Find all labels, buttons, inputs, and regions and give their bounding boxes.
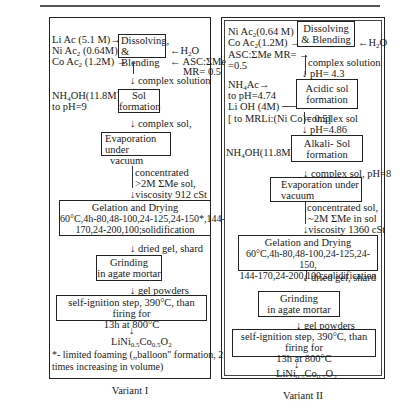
v2-dissolving-line1: Dissolving: [298, 22, 354, 34]
v1-flow-line: [133, 62, 134, 74]
subscript: 0.5: [317, 373, 326, 381]
v1-ignition-box: self-ignition step, 390°C, than firing f…: [56, 295, 207, 321]
v1-input-to-ph: to pH=9: [52, 101, 87, 112]
v1-ignite-line1: self-ignition step, 390°C, than firing f…: [57, 296, 206, 319]
v1-grind-line1: Grinding: [97, 256, 161, 268]
v2-gel-title: Gelation and Drying: [239, 236, 377, 248]
v2-nh4ac-rest: Ac→: [247, 79, 270, 90]
v1-label-viscosity: ↓viscosity 912 cSt: [130, 189, 207, 200]
v1-gelation-box: Gelation and Drying 60°C,4h-80,48-100,24…: [59, 200, 211, 236]
v1-caption: Variant I: [49, 385, 211, 396]
v1-input-ni-ac: Ni Ac2 (0.64M)→: [52, 45, 128, 56]
v2-alkali-line1: Alkali- Sol: [292, 136, 362, 149]
v1-co-ac-label: Co Ac: [52, 56, 79, 67]
v2-evap-line2: vacuum: [281, 190, 361, 201]
v2-label-viscosity: ↓viscosity 1360 cSt: [303, 224, 385, 235]
v2-dissolving-box: Dissolving & Blending: [297, 21, 355, 47]
v2-label-dried-gel: ↓ dried gel, shard: [303, 272, 376, 283]
v2-grind-line2: in agate mortar: [259, 304, 339, 315]
v2-input-to-ph: to pH=4.74: [228, 90, 276, 101]
v1-label-conc-me: >2M ΣMe sol,: [135, 178, 196, 189]
v1-evaporation-box: Evaporation under vacuum: [101, 132, 171, 156]
v2-grind-line1: Grinding: [259, 292, 339, 304]
subscript: 0.5: [296, 373, 305, 381]
v1-footnote-line1: *- limited foaming („balloon" formation,…: [52, 349, 223, 360]
v2-input-h2o: ←H2O: [358, 37, 387, 48]
v2-co-ac-label: Co Ac: [228, 37, 255, 48]
v1-gel-line2: 170,24-200,100;solidification: [60, 224, 210, 235]
v1-evap-line1: Evaporation under: [105, 133, 170, 155]
top-rule: [40, 5, 380, 7]
v2-ignition-box: self-ignition step, 390°C, than firing f…: [232, 329, 376, 357]
v1-label-dried-gel: ↓ dried gel, shard: [130, 243, 203, 254]
v2-acidic-line1: Acidic sol: [297, 80, 357, 94]
v2-gel-line1: 60°C,4h-80,48-100,24-125,24-150,: [239, 248, 377, 270]
v2-h2o-label: ←H: [358, 37, 376, 48]
v1-dissolving-line1: Dissolving,: [121, 35, 165, 46]
v1-grinding-box: Grinding in agate mortar: [96, 255, 162, 281]
v2-flow-line: [304, 112, 305, 124]
v1-input-co-ac: Co Ac2 (1.2M) →: [52, 56, 127, 67]
v1-grind-line2: in agate mortar: [97, 268, 161, 279]
v2-h2o-rest: O: [380, 37, 388, 48]
subscript: 0.5: [152, 341, 161, 349]
formula-part: Co: [305, 368, 317, 379]
formula-part: Co: [140, 336, 152, 347]
v1-arrow-down: ↓: [129, 325, 134, 336]
v2-input-asc: ASC:ΣMe MR= →: [228, 49, 309, 60]
v2-acidic-line2: formation: [297, 94, 357, 105]
v1-flow-line: [132, 166, 133, 188]
v2-label-ph1: ↓ pH= 4.3: [302, 68, 344, 79]
v2-evap-line1: Evaporation under: [281, 178, 361, 190]
v2-evaporation-box: Evaporation under vacuum: [270, 177, 362, 202]
v2-input-asc-value: =0.5: [228, 60, 247, 71]
v2-label-complex-solution: complex solution: [308, 57, 381, 68]
v2-flow-line: [305, 202, 306, 224]
v2-ni-ac-label: Ni Ac: [228, 26, 253, 37]
v1-nh4oh-label: NH: [52, 90, 67, 101]
formula-part: LiNi: [276, 368, 296, 379]
v2-ignite-line1: self-ignition step, 390°C, than firing f…: [233, 330, 375, 353]
v1-sol-line1: Sol: [119, 90, 159, 101]
formula-part: LiNi: [111, 336, 131, 347]
subscript: 0.5: [131, 341, 140, 349]
v2-label-concentrated: concentrated sol,: [307, 202, 378, 213]
v2-nh4oh-label: NH: [226, 147, 241, 158]
v1-label-concentrated: concentrated: [135, 167, 189, 178]
v1-label-complex-sol: ↓ complex sol,: [130, 118, 192, 129]
v1-dissolving-box: Dissolving, & Blending: [118, 34, 166, 58]
subscript: 2: [168, 341, 172, 349]
v2-input-co-ac: Co Ac2(1.2M) →: [228, 37, 301, 48]
v1-input-h2o: ←H2O: [170, 45, 199, 56]
v1-evap-line2: vacuum: [105, 155, 170, 166]
v1-ni-ac-label: Ni Ac: [52, 45, 77, 56]
v1-sol-formation-box: Sol formation: [118, 89, 160, 113]
v2-nh4ac-label: NH: [228, 79, 243, 90]
v2-label-conc-me: ~2M ΣMe in sol: [308, 213, 377, 224]
v2-ignite-line2: 13h at 800°C: [233, 353, 375, 364]
v2-label-complex-sol: complex sol: [307, 113, 358, 124]
v2-input-nh4ac: NH4Ac→: [228, 79, 269, 90]
v2-acidic-sol-box: Acidic sol formation: [296, 79, 358, 109]
v1-h2o-label: ←H: [170, 45, 188, 56]
v1-input-li-ac: Li Ac (5.1 M)→: [52, 34, 121, 45]
v1-dissolving-line2: & Blending: [121, 46, 165, 68]
v2-dissolving-line2: & Blending: [298, 34, 354, 45]
v2-caption: Variant II: [221, 390, 385, 401]
v2-alkali-sol-box: Alkali- Sol formation: [291, 135, 363, 162]
v1-sol-line2: formation: [119, 101, 159, 112]
subscript: 2: [333, 373, 337, 381]
v1-gel-title: Gelation and Drying: [60, 201, 210, 213]
v1-gel-line1: 60°C,4h-80,48-100,24-125,24-150*,144-: [60, 213, 210, 224]
v1-product-formula: LiNi0.5Co0.5O2: [111, 336, 172, 347]
v1-footnote-line2: times increasing in volume): [52, 361, 163, 372]
v2-alkali-line2: formation: [292, 149, 362, 160]
v2-input-ni-ac: Ni Ac2(0.64 M) →: [228, 26, 307, 37]
v2-grinding-box: Grinding in agate mortar: [258, 291, 340, 317]
v1-label-complex-solution: ↓ complex solution: [130, 75, 211, 86]
v2-product-formula: LiNi0.5Co0.5O2: [276, 368, 337, 379]
v2-label-ph2: ↓ pH=4.86: [302, 124, 347, 135]
v2-gelation-box: Gelation and Drying 60°C,4h-80,48-100,24…: [238, 235, 378, 271]
v1-h2o-rest: O: [192, 45, 200, 56]
v2-co-ac-conc: (1.2M) →: [258, 37, 301, 48]
